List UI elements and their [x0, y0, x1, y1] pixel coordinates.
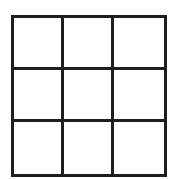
cell-1-2[interactable]	[64, 18, 114, 70]
tic-tac-toe-board	[11, 15, 167, 177]
cell-3-3[interactable]	[114, 122, 164, 174]
cell-1-1[interactable]	[14, 18, 64, 70]
cell-2-3[interactable]	[114, 70, 164, 122]
cell-2-2[interactable]	[64, 70, 114, 122]
cell-2-1[interactable]	[14, 70, 64, 122]
cell-1-3[interactable]	[114, 18, 164, 70]
cell-3-2[interactable]	[64, 122, 114, 174]
cell-3-1[interactable]	[14, 122, 64, 174]
